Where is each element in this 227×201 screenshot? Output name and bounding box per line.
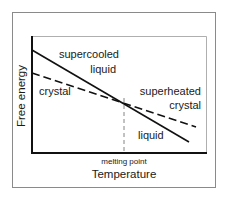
label-superheated: superheated [140, 85, 201, 97]
melting-point-label: melting point [101, 157, 147, 166]
y-axis-title: Free energy [15, 65, 27, 127]
label-supercooled: supercooled [59, 48, 119, 60]
label-superheated-crystal: crystal [169, 99, 201, 111]
label-liquid-right: liquid [138, 129, 164, 141]
x-axis-title: Temperature [92, 168, 157, 180]
free-energy-diagram: supercooled liquid crystal superheated c… [0, 0, 227, 201]
label-crystal-left: crystal [39, 85, 71, 97]
label-supercooled-liquid: liquid [90, 63, 116, 75]
